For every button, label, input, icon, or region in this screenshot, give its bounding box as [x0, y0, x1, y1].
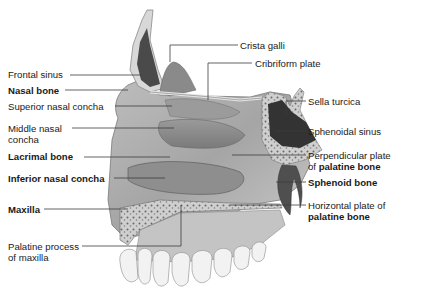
label-sphenoidal-sinus: Sphenoidal sinus [308, 126, 381, 137]
label-middle-nasal-concha-line2: concha [8, 134, 62, 145]
label-superior-nasal-concha: Superior nasal concha [8, 101, 103, 112]
label-lacrimal-bone: Lacrimal bone [8, 151, 73, 162]
label-inferior-nasal-concha: Inferior nasal concha [8, 173, 105, 184]
label-prefix: of [308, 161, 319, 172]
label-sella-turcica: Sella turcica [308, 96, 360, 107]
label-sphenoid-bone: Sphenoid bone [308, 177, 377, 188]
crista-galli-shape [160, 62, 196, 96]
label-middle-nasal-concha: Middle nasal concha [8, 123, 62, 145]
label-maxilla: Maxilla [8, 204, 40, 215]
label-horizontal-plate-line2: palatine bone [308, 211, 385, 222]
label-nasal-bone: Nasal bone [8, 85, 59, 96]
label-palatine-process-line2: of maxilla [8, 252, 79, 263]
label-horizontal-plate: Horizontal plate of palatine bone [308, 200, 385, 222]
label-middle-nasal-concha-line1: Middle nasal [8, 123, 62, 134]
label-frontal-sinus: Frontal sinus [8, 69, 63, 80]
label-crista-galli: Crista galli [240, 40, 285, 51]
label-perpendicular-plate-line2: of palatine bone [308, 161, 391, 172]
label-bold-palatine-bone: palatine bone [319, 161, 381, 172]
label-perpendicular-plate-line1: Perpendicular plate [308, 150, 391, 161]
label-horizontal-plate-line1: Horizontal plate of [308, 200, 385, 211]
label-palatine-process: Palatine process of maxilla [8, 241, 79, 263]
label-perpendicular-plate: Perpendicular plate of palatine bone [308, 150, 391, 172]
nasal-cavity-diagram: Frontal sinus Nasal bone Superior nasal … [0, 0, 427, 293]
label-cribriform-plate: Cribriform plate [255, 58, 321, 69]
label-palatine-process-line1: Palatine process [8, 241, 79, 252]
